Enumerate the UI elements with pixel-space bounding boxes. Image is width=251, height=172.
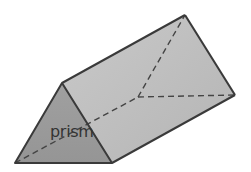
prism-figure <box>0 0 251 172</box>
prism-diagram: prism <box>0 0 251 172</box>
prism-label: prism <box>50 122 94 141</box>
